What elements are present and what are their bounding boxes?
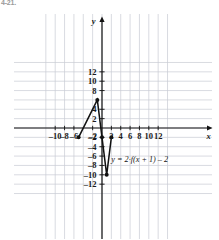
svg-text:12: 12 <box>154 131 163 141</box>
graph-figure: 4-21. –10–8–6–2246810121210842–2–4–6–8–1… <box>0 0 219 239</box>
equation-text: y = 2·f(x + 1) – 2 <box>110 155 168 164</box>
svg-text:–12: –12 <box>83 179 97 189</box>
svg-text:2: 2 <box>92 114 96 124</box>
coordinate-plane: –10–8–6–2246810121210842–2–4–6–8–10–12yx… <box>0 0 219 239</box>
y-axis-label: y <box>91 16 96 26</box>
x-axis-label: x <box>205 131 211 141</box>
svg-text:8: 8 <box>92 86 96 96</box>
grid-lines <box>14 14 212 239</box>
svg-text:6: 6 <box>128 131 132 141</box>
svg-text:2: 2 <box>109 131 113 141</box>
svg-text:–8: –8 <box>59 131 69 141</box>
svg-text:4: 4 <box>119 131 124 141</box>
svg-text:10: 10 <box>145 131 154 141</box>
equation-annotation: y = 2·f(x + 1) – 2 <box>110 155 168 164</box>
axes <box>14 17 213 240</box>
svg-text:–6: –6 <box>69 131 79 141</box>
svg-text:8: 8 <box>137 131 141 141</box>
